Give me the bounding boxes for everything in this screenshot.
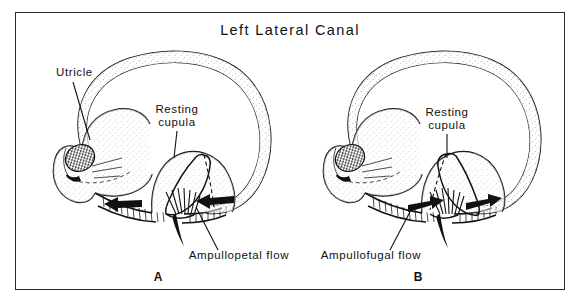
resting-cupula-label-b-line1: Resting	[425, 106, 468, 118]
panel-b: Resting cupula Ampullofugal flow B	[321, 51, 541, 284]
canal-limb-right-lower-b	[452, 215, 496, 223]
resting-cupula-label-a-line1: Resting	[155, 103, 198, 115]
utricle-label-a: Utricle	[56, 66, 93, 78]
panel-a: Utricle Resting cupula Ampullopetal flow…	[53, 51, 289, 284]
resting-cupula-leader-a	[174, 131, 177, 158]
resting-cupula-label-a-line2: cupula	[158, 116, 196, 128]
panel-letter-a: A	[154, 270, 163, 284]
anatomy-illustration: Left Lateral Canal	[0, 0, 585, 306]
flow-label-a: Ampullopetal flow	[189, 249, 289, 261]
figure-root: Left Lateral Canal	[0, 0, 585, 306]
crista-nerve-b	[437, 214, 448, 248]
crista-base-b	[430, 214, 458, 218]
flow-leader-b	[390, 208, 412, 250]
figure-title: Left Lateral Canal	[220, 22, 360, 38]
panel-letter-b: B	[414, 270, 423, 284]
flow-label-b: Ampullofugal flow	[321, 249, 421, 261]
resting-cupula-label-b-line2: cupula	[428, 119, 466, 131]
